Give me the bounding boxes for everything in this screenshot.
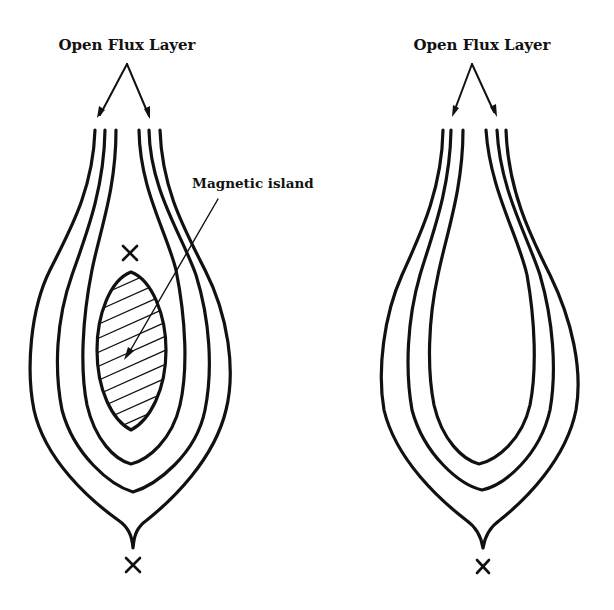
left-inner-flux-surface (83, 130, 185, 464)
left-upper-x-point (123, 246, 137, 260)
left-open-flux-layer-label: Open Flux Layer (58, 36, 196, 54)
left-panel: Open Flux Layer (30, 36, 314, 572)
left-lower-x-point (126, 558, 140, 572)
right-x-point (477, 560, 489, 573)
magnetic-island-pointer (124, 199, 218, 360)
flux-diagram: Open Flux Layer (0, 0, 614, 610)
left-open-flux-arrows (97, 64, 150, 119)
right-field-lines (381, 130, 578, 548)
left-outer-separatrix (30, 130, 230, 548)
magnetic-island (90, 262, 175, 454)
right-outer-separatrix (381, 130, 578, 548)
right-open-flux-arrows (452, 64, 497, 117)
magnetic-island-label: Magnetic island (192, 175, 314, 191)
left-field-lines (30, 130, 230, 548)
island-hatching (90, 262, 175, 454)
right-open-flux-layer-label: Open Flux Layer (413, 36, 551, 54)
right-panel: Open Flux Layer (381, 36, 578, 573)
left-middle-flux-surface (57, 130, 209, 492)
arrowhead-icon (452, 105, 459, 117)
